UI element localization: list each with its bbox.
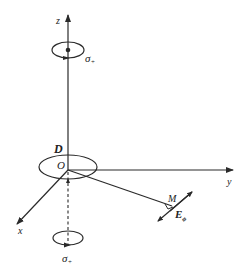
point-m-label: M — [167, 193, 177, 204]
e-phi-label: Eϕ — [174, 208, 186, 223]
diagram-canvas: z y x O D M Eϕ σ+ σ+ — [0, 0, 246, 273]
top-sigma-label: σ+ — [85, 52, 95, 66]
top-dot — [66, 48, 71, 53]
top-loop-arrow-icon — [63, 56, 70, 60]
bottom-loop-arrow-icon — [64, 243, 71, 248]
region-d-label: D — [53, 142, 63, 156]
y-axis-label: y — [226, 176, 232, 187]
radius-line-om — [68, 170, 172, 206]
z-axis-label: z — [55, 15, 60, 26]
bottom-sigma-label: σ+ — [62, 252, 72, 266]
origin-label: O — [57, 159, 65, 171]
x-axis-label: x — [17, 225, 23, 236]
